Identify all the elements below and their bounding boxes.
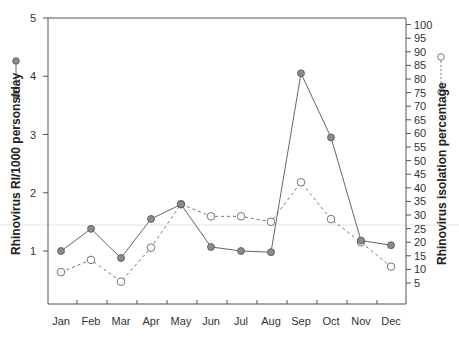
filled-marker	[328, 134, 335, 141]
right-tick-label: 40	[414, 182, 426, 194]
right-tick-label: 80	[414, 73, 426, 85]
right-axis-title: Rhinovirus isolation percentage	[435, 82, 449, 265]
right-tick-label: 90	[414, 46, 426, 58]
right-tick-label: 95	[414, 32, 426, 44]
x-tick-label: Apr	[142, 315, 159, 327]
right-tick-label: 50	[414, 155, 426, 167]
right-tick-label: 35	[414, 195, 426, 207]
filled-marker	[58, 248, 65, 255]
open-marker	[207, 213, 215, 221]
right-tick-label: 85	[414, 59, 426, 71]
open-marker	[87, 256, 95, 264]
series-ri-per-1000	[58, 70, 395, 262]
open-marker	[327, 215, 335, 223]
filled-marker	[118, 254, 125, 261]
right-tick-label: 70	[414, 100, 426, 112]
x-tick-label: Sep	[291, 315, 311, 327]
x-tick-label: Jul	[234, 315, 248, 327]
filled-marker	[238, 248, 245, 255]
x-tick-label: Aug	[261, 315, 281, 327]
filled-marker	[358, 237, 365, 244]
x-tick-label: Jan	[52, 315, 70, 327]
left-tick-label: 1	[30, 245, 36, 257]
right-tick-label: 55	[414, 141, 426, 153]
right-tick-label: 30	[414, 209, 426, 221]
filled-marker	[298, 70, 305, 77]
right-tick-label: 100	[414, 19, 432, 31]
x-tick-label: Mar	[112, 315, 131, 327]
right-tick-label: 5	[414, 277, 420, 289]
right-tick-label: 65	[414, 114, 426, 126]
x-tick-label: Oct	[322, 315, 339, 327]
dual-axis-line-chart: 12345 5101520253035404550556065707580859…	[0, 0, 459, 338]
open-marker	[267, 218, 275, 226]
right-y-ticks: 5101520253035404550556065707580859095100	[406, 19, 432, 289]
x-tick-label: Feb	[82, 315, 101, 327]
left-y-ticks: 12345	[30, 12, 48, 257]
x-tick-label: May	[171, 315, 192, 327]
open-marker	[57, 268, 65, 276]
right-tick-label: 20	[414, 236, 426, 248]
x-tick-label: Nov	[351, 315, 371, 327]
left-tick-label: 2	[30, 187, 36, 199]
open-marker	[147, 244, 155, 252]
right-tick-label: 60	[414, 127, 426, 139]
open-marker	[387, 263, 395, 271]
filled-marker	[178, 201, 185, 208]
x-tick-label: Dec	[381, 315, 401, 327]
right-tick-label: 25	[414, 223, 426, 235]
filled-marker	[88, 225, 95, 232]
legend-open-marker-icon	[438, 54, 445, 61]
open-marker	[297, 179, 305, 187]
filled-marker	[148, 215, 155, 222]
left-tick-label: 4	[30, 70, 36, 82]
open-marker	[117, 278, 125, 286]
filled-marker	[268, 249, 275, 256]
x-tick-label: Jun	[202, 315, 220, 327]
right-tick-label: 15	[414, 250, 426, 262]
filled-marker	[208, 243, 215, 250]
right-tick-label: 75	[414, 87, 426, 99]
open-marker	[237, 213, 245, 221]
left-axis-title: Rhinovirus RI/1000 persons/day	[9, 73, 23, 255]
left-tick-label: 3	[30, 129, 36, 141]
axes	[48, 18, 406, 304]
left-tick-label: 5	[30, 12, 36, 24]
filled-marker	[388, 242, 395, 249]
right-tick-label: 10	[414, 263, 426, 275]
legend-filled-marker-icon	[13, 58, 20, 65]
series-isolation-percentage	[57, 179, 395, 286]
right-tick-label: 45	[414, 168, 426, 180]
